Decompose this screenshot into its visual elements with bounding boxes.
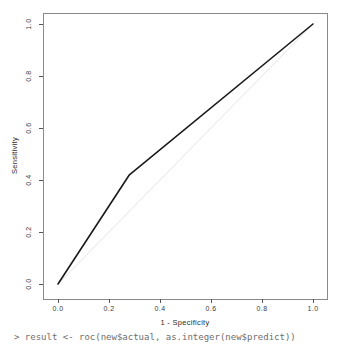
x-tick-label: 0.6: [199, 305, 223, 312]
plot-box: [44, 14, 328, 300]
y-tick-label: 0.0: [24, 272, 34, 296]
x-tick-label: 0.4: [148, 305, 172, 312]
x-tick-label: 0.8: [250, 305, 274, 312]
r-plot-screenshot: 1 - Specificity Sensitivity 0.00.20.40.6…: [0, 0, 341, 348]
roc-plot-canvas: [0, 0, 341, 325]
x-tick-label: 0.2: [97, 305, 121, 312]
y-tick-label: 0.8: [24, 64, 34, 88]
y-tick-label: 1.0: [24, 12, 34, 36]
x-tick-label: 0.0: [46, 305, 70, 312]
y-tick-label: 0.6: [24, 116, 34, 140]
y-tick-label: 0.4: [24, 168, 34, 192]
x-axis-label: 1 - Specificity: [43, 318, 327, 327]
x-tick-label: 1.0: [301, 305, 325, 312]
y-axis-label: Sensitivity: [10, 14, 19, 298]
roc-curve-figure: 1 - Specificity Sensitivity 0.00.20.40.6…: [0, 0, 341, 325]
chance-reference-diagonal-line: [58, 24, 313, 284]
y-tick-label: 0.2: [24, 220, 34, 244]
console-command-line[interactable]: > result <- roc(new$actual, as.integer(n…: [14, 332, 341, 342]
